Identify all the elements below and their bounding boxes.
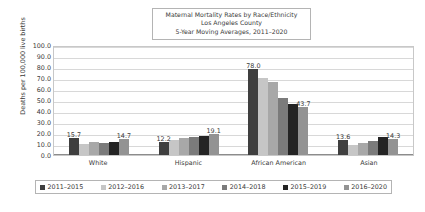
bar-value-label: 19.1	[207, 127, 221, 136]
legend-label: 2015–2019	[291, 183, 327, 191]
bar-group: 78.043.7	[234, 47, 324, 155]
legend-swatch-icon	[162, 185, 167, 190]
y-axis-tick-label: 80.0	[18, 64, 51, 72]
legend-item[interactable]: 2014–2018	[222, 183, 265, 191]
bar[interactable]	[119, 139, 129, 155]
bar[interactable]	[248, 69, 258, 155]
y-axis-tick-label: 20.0	[18, 130, 51, 138]
chart-title: Maternal Mortality Rates by Race/Ethnici…	[152, 8, 311, 40]
y-axis-tick-labels: 100.090.080.070.060.050.040.030.020.010.…	[18, 46, 51, 156]
legend-swatch-icon	[222, 185, 227, 190]
chart-title-line-3: 5-Year Moving Averages, 2011–2020	[156, 28, 307, 36]
bar-value-label: 13.6	[336, 133, 350, 142]
y-axis-tick-label: 50.0	[18, 97, 51, 105]
bar[interactable]	[159, 142, 169, 155]
plot-area: 15.714.712.219.178.043.713.614.3	[53, 46, 414, 156]
legend-item[interactable]: 2013–2017	[162, 183, 205, 191]
y-axis-tick-label: 90.0	[18, 53, 51, 61]
bar[interactable]	[189, 137, 199, 155]
bar-group: 13.614.3	[323, 47, 413, 155]
chart-container: Maternal Mortality Rates by Race/Ethnici…	[0, 0, 425, 212]
bar-value-label: 78.0	[246, 62, 260, 71]
bar[interactable]	[209, 134, 219, 155]
legend-item[interactable]: 2011–2015	[40, 183, 83, 191]
bar[interactable]	[99, 143, 109, 155]
bar[interactable]	[109, 142, 119, 155]
legend-swatch-icon	[283, 185, 288, 190]
bar[interactable]	[298, 107, 308, 155]
bar[interactable]	[79, 144, 89, 155]
x-axis-category-label: African American	[234, 159, 324, 167]
x-axis-category-label: Hispanic	[143, 159, 233, 167]
bar-value-label: 14.7	[117, 132, 131, 141]
x-axis-category-label: White	[53, 159, 143, 167]
y-axis-tick-label: 60.0	[18, 86, 51, 94]
y-axis-tick-label: 30.0	[18, 119, 51, 127]
bar-value-label: 12.2	[157, 135, 171, 144]
legend-label: 2014–2018	[230, 183, 266, 191]
bar[interactable]	[348, 145, 358, 155]
bar[interactable]	[338, 140, 348, 155]
legend-label: 2011–2015	[48, 183, 84, 191]
bar-value-label: 15.7	[67, 131, 81, 140]
x-axis-category-label: Asian	[324, 159, 414, 167]
chart-title-line-1: Maternal Mortality Rates by Race/Ethnici…	[156, 11, 307, 19]
x-axis-category-labels: WhiteHispanicAfrican AmericanAsian	[53, 159, 414, 167]
bar[interactable]	[278, 98, 288, 155]
y-axis-tick-label: 40.0	[18, 108, 51, 116]
legend-item[interactable]: 2012–2016	[101, 183, 144, 191]
legend-item[interactable]: 2016–2020	[344, 183, 387, 191]
legend-swatch-icon	[101, 185, 106, 190]
bar-value-label: 14.3	[386, 132, 400, 141]
y-axis-tick-label: 10.0	[18, 141, 51, 149]
bar[interactable]	[199, 136, 209, 155]
legend-label: 2013–2017	[169, 183, 205, 191]
chart-title-line-2: Los Angeles County	[156, 19, 307, 27]
bar[interactable]	[258, 78, 268, 155]
bar-group: 15.714.7	[54, 47, 144, 155]
bar[interactable]	[268, 82, 278, 155]
legend-label: 2016–2020	[351, 183, 387, 191]
bar[interactable]	[179, 138, 189, 155]
y-axis-tick-label: 70.0	[18, 75, 51, 83]
legend-swatch-icon	[40, 185, 45, 190]
bar[interactable]	[388, 139, 398, 155]
bar[interactable]	[89, 142, 99, 155]
bar-group: 12.219.1	[144, 47, 234, 155]
bar[interactable]	[288, 104, 298, 155]
bar[interactable]	[358, 143, 368, 155]
bar-groups: 15.714.712.219.178.043.713.614.3	[54, 47, 413, 155]
legend-swatch-icon	[344, 185, 349, 190]
y-axis-tick-label: 0.0	[18, 152, 51, 160]
bar[interactable]	[368, 141, 378, 155]
legend-label: 2012–2016	[108, 183, 144, 191]
bar-value-label: 43.7	[296, 100, 310, 109]
chart-legend: 2011–20152012–20162013–20172014–20182015…	[35, 180, 392, 194]
bar[interactable]	[69, 138, 79, 155]
legend-item[interactable]: 2015–2019	[283, 183, 326, 191]
y-axis-tick-label: 100.0	[18, 42, 51, 50]
